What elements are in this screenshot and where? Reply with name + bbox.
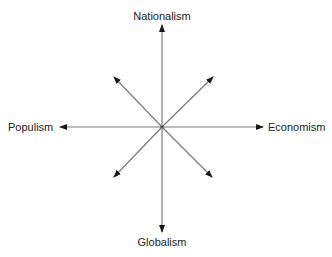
label-economism: Economism xyxy=(268,121,325,133)
label-globalism-wrap: Globalism xyxy=(0,236,332,248)
label-nationalism-wrap: Nationalism xyxy=(0,10,332,22)
center-point xyxy=(161,126,164,129)
label-globalism: Globalism xyxy=(138,236,187,248)
arrow-up-right xyxy=(162,77,213,127)
label-nationalism: Nationalism xyxy=(133,10,190,22)
arrow-up-left xyxy=(114,77,162,127)
label-populism: Populism xyxy=(8,121,53,133)
arrow-down-left xyxy=(114,127,162,177)
arrow-down-right xyxy=(162,127,212,177)
